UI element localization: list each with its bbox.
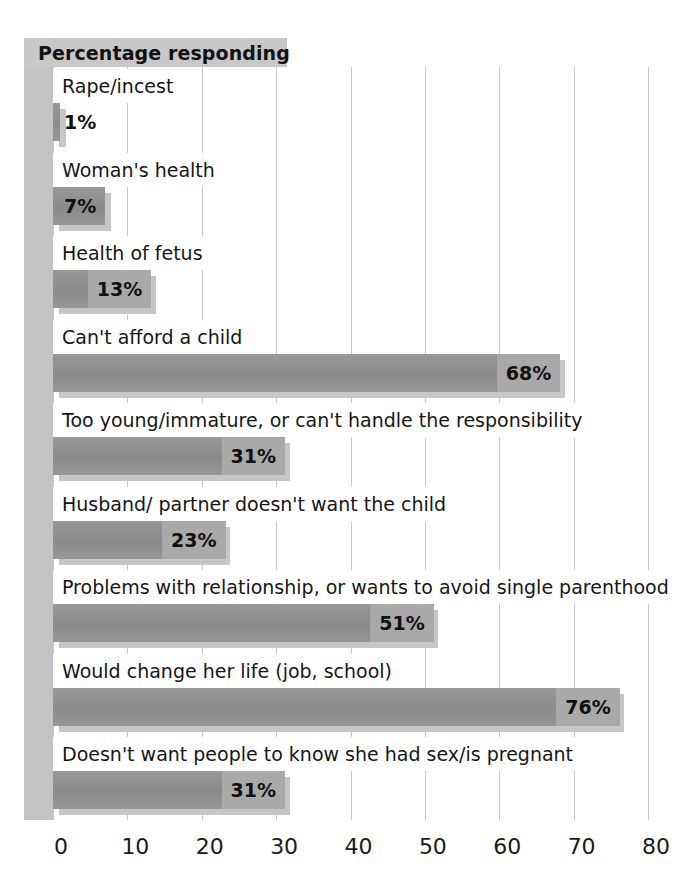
chart-row: Husband/ partner doesn't want the child2… <box>0 487 685 571</box>
bar-group <box>53 688 626 734</box>
x-axis: 01020304050607080 <box>0 820 685 880</box>
chart-row: Doesn't want people to know she had sex/… <box>0 737 685 821</box>
bar-value-label: 7% <box>55 187 105 225</box>
bar-value-label: 51% <box>370 604 433 642</box>
bar-value-label: 31% <box>222 771 285 809</box>
category-label: Rape/incest <box>53 69 183 103</box>
chart-row: Too young/immature, or can't handle the … <box>0 403 685 487</box>
category-label: Husband/ partner doesn't want the child <box>53 487 456 521</box>
x-tick-label: 20 <box>196 834 224 859</box>
category-label: Too young/immature, or can't handle the … <box>53 403 593 437</box>
chart-row: Would change her life (job, school)76% <box>0 654 685 738</box>
chart-row: Health of fetus13% <box>0 236 685 320</box>
chart-row: Woman's health7% <box>0 153 685 237</box>
x-tick-label: 0 <box>54 834 68 859</box>
bar-group <box>53 354 567 400</box>
bar <box>53 688 618 726</box>
bar-value-label: 1% <box>55 103 105 141</box>
chart-row: Rape/incest1% <box>0 69 685 153</box>
bar-value-label: 31% <box>222 437 285 475</box>
bar <box>53 354 559 392</box>
category-label: Doesn't want people to know she had sex/… <box>53 737 583 771</box>
x-tick-label: 10 <box>121 834 149 859</box>
chart-row: Can't afford a child68% <box>0 320 685 404</box>
bar-value-label: 68% <box>497 354 560 392</box>
category-label: Would change her life (job, school) <box>53 654 402 688</box>
x-tick-label: 60 <box>493 834 521 859</box>
category-label: Woman's health <box>53 153 225 187</box>
x-tick-label: 30 <box>270 834 298 859</box>
bar-chart: Percentage responding Rape/incest1%Woman… <box>0 0 685 880</box>
category-label: Can't afford a child <box>53 320 252 354</box>
category-label: Health of fetus <box>53 236 213 270</box>
x-tick-label: 80 <box>642 834 670 859</box>
bar-value-label: 76% <box>556 688 619 726</box>
x-tick-label: 70 <box>568 834 596 859</box>
category-label: Problems with relationship, or wants to … <box>53 570 679 604</box>
chart-header-band: Percentage responding <box>24 38 287 67</box>
chart-row: Problems with relationship, or wants to … <box>0 570 685 654</box>
bar-value-label: 13% <box>88 270 151 308</box>
plot-area: Rape/incest1%Woman's health7%Health of f… <box>0 67 685 820</box>
x-tick-label: 40 <box>345 834 373 859</box>
bar-value-label: 23% <box>162 521 225 559</box>
chart-title: Percentage responding <box>24 42 290 64</box>
x-tick-label: 50 <box>419 834 447 859</box>
